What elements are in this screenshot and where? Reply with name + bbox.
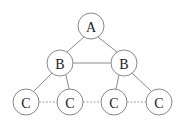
node-c-1: C [13, 89, 39, 115]
edge-b2-c4 [132, 73, 151, 91]
node-label: C [109, 96, 118, 111]
node-c-4: C [146, 89, 172, 115]
node-label: A [86, 20, 97, 35]
edge-b1-c2 [66, 75, 69, 89]
node-b-right: B [111, 50, 137, 76]
edge-b1-c1 [34, 73, 52, 91]
node-label: B [119, 57, 128, 72]
edge-b2-c3 [116, 75, 119, 89]
edge-a-b2 [98, 37, 117, 52]
node-c-3: C [101, 89, 127, 115]
edge-a-b1 [67, 37, 84, 52]
node-label: C [154, 96, 163, 111]
node-c-2: C [57, 89, 83, 115]
node-label: C [65, 96, 74, 111]
node-label: B [55, 57, 64, 72]
node-a: A [78, 13, 104, 39]
node-b-left: B [47, 50, 73, 76]
node-label: C [21, 96, 30, 111]
tree-diagram: A B B C C C C [0, 0, 183, 122]
